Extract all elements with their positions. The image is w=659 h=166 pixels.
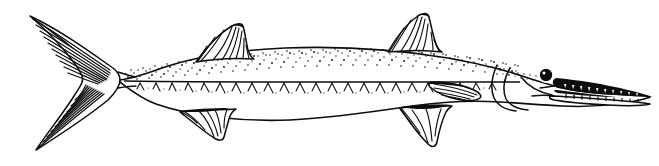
barracuda-illustration-figure (0, 0, 659, 166)
chin-line (532, 95, 554, 96)
eye (540, 69, 552, 81)
eye-highlight (543, 72, 546, 75)
barracuda-line-drawing (0, 0, 659, 166)
